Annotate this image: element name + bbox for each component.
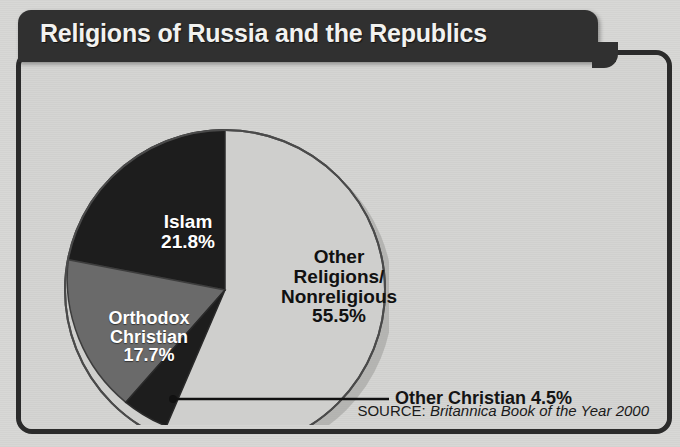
pie-chart: Islam 21.8% Orthodox Christian 17.7% Oth… <box>49 69 389 425</box>
chart-frame: Islam 21.8% Orthodox Christian 17.7% Oth… <box>16 50 672 434</box>
slice-label-other-religions: Other Religions/ Nonreligious 55.5% <box>263 247 415 326</box>
source-line: SOURCE: Britannica Book of the Year 2000 <box>357 402 649 419</box>
title-tab: Religions of Russia and the Republics <box>18 10 598 62</box>
slice-label-orthodox-christian: Orthodox Christian 17.7% <box>81 309 217 365</box>
callout-anchor-dot <box>169 395 177 403</box>
slice-label-islam: Islam 21.8% <box>133 212 243 252</box>
chart-panel: Islam 21.8% Orthodox Christian 17.7% Oth… <box>21 55 667 429</box>
page-title: Religions of Russia and the Republics <box>40 19 487 48</box>
source-prefix: SOURCE: <box>357 402 425 419</box>
source-citation: Britannica Book of the Year 2000 <box>430 402 649 419</box>
